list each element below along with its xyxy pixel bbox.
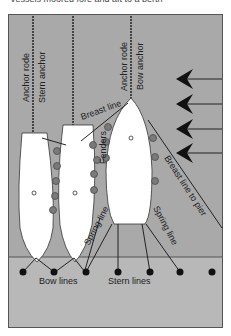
label-fenders: Fenders xyxy=(98,130,108,164)
label-breast-line-to-pier: Breast line to pier xyxy=(162,154,209,218)
mooring-diagram: Anchor rode Stern anchor Anchor rode Bow… xyxy=(0,0,231,336)
label-stern-anchor: Stern anchor xyxy=(37,51,47,103)
label-stern-lines: Stern lines xyxy=(108,276,151,286)
label-bow-anchor: Bow anchor xyxy=(135,42,145,90)
pier-area xyxy=(9,257,222,327)
boat-left-hull xyxy=(19,133,54,262)
label-bow-lines: Bow lines xyxy=(39,276,78,286)
label-breast-line: Breast line xyxy=(79,98,122,122)
wind-direction-arrows xyxy=(176,69,222,163)
label-anchor-rode-left: Anchor rode xyxy=(21,53,31,102)
label-spring-line-right: Spring line xyxy=(151,204,180,246)
boat-right-hull xyxy=(106,98,152,224)
label-anchor-rode-right: Anchor rode xyxy=(119,42,129,91)
